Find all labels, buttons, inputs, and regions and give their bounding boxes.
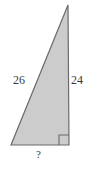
side-label-hypotenuse: 26 [13,74,25,86]
geometry-figure: 26 24 ? [0,0,87,170]
side-label-base-unknown: ? [36,149,41,160]
side-label-vertical-leg: 24 [71,74,83,86]
